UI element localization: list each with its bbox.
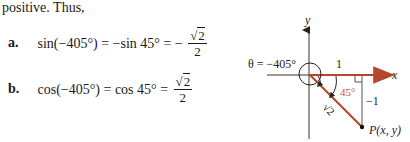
theta-label: θ = −405° xyxy=(248,57,296,71)
angle-arc xyxy=(331,76,336,96)
angle-label: 45° xyxy=(340,86,355,98)
unit-circle-figure: y x θ = −405° 1 −1 P(x, y) √2 45° xyxy=(0,0,410,142)
x-axis-label: x xyxy=(391,68,398,82)
horizontal-leg-label: 1 xyxy=(336,57,342,71)
y-axis-label: y xyxy=(304,13,311,27)
point-label: P(x, y) xyxy=(368,123,401,137)
point-p xyxy=(360,125,364,129)
hypotenuse-label: √2 xyxy=(321,101,338,118)
vertical-leg-label: −1 xyxy=(366,94,379,108)
